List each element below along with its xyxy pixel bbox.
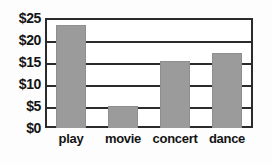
y-axis-tick-label: $5 bbox=[0, 99, 41, 113]
y-axis: $25 $20 $15 $10 $5 $0 bbox=[0, 0, 44, 164]
y-axis-tick-label: $25 bbox=[0, 11, 41, 25]
y-axis-tick-label: $10 bbox=[0, 77, 41, 91]
y-axis-tick-label: $15 bbox=[0, 55, 41, 69]
x-axis-label-concert: concert bbox=[153, 130, 198, 148]
bars-layer bbox=[45, 18, 253, 128]
bar-concert bbox=[160, 61, 189, 128]
x-axis: play movie concert dance bbox=[45, 130, 253, 152]
y-axis-tick-label: $0 bbox=[0, 121, 41, 135]
bar-play bbox=[56, 25, 85, 128]
x-axis-label-play: play bbox=[59, 130, 84, 148]
bar-movie bbox=[108, 106, 137, 128]
y-axis-tick-label: $20 bbox=[0, 33, 41, 47]
bar-dance bbox=[212, 53, 241, 128]
x-axis-label-dance: dance bbox=[209, 130, 245, 148]
x-axis-label-movie: movie bbox=[105, 130, 141, 148]
bar-chart: $25 $20 $15 $10 $5 $0 play movie concert… bbox=[0, 0, 272, 164]
